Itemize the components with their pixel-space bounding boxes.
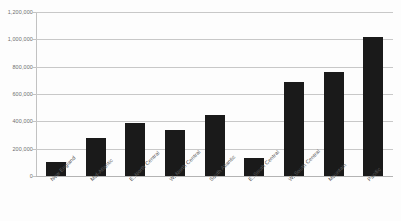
plot-area [36,12,393,176]
y-tickmark [32,176,36,177]
y-tick-label: 1,000,000 [8,36,33,42]
y-axis-label-group: 0200,000400,000600,000800,0001,000,0001,… [0,0,33,221]
gridline [36,12,393,13]
y-tickmark [32,94,36,95]
y-tickmark [32,12,36,13]
y-tick-label: 800,000 [12,64,33,70]
y-tick-label: 200,000 [12,146,33,152]
bar [284,82,304,176]
gridline [36,39,393,40]
y-tick-label: 1,200,000 [8,9,33,15]
bar [324,72,344,176]
y-tick-label: 600,000 [12,91,33,97]
y-tickmark [32,39,36,40]
y-tickmark [32,121,36,122]
y-tickmark [32,67,36,68]
bar-chart: 0200,000400,000600,000800,0001,000,0001,… [0,0,401,221]
x-axis-label-group: New EnglandMid-AtlanticE. North CentralW… [36,178,393,221]
bar [363,37,383,176]
gridline [36,67,393,68]
y-tick-label: 400,000 [12,118,33,124]
y-tickmark [32,149,36,150]
